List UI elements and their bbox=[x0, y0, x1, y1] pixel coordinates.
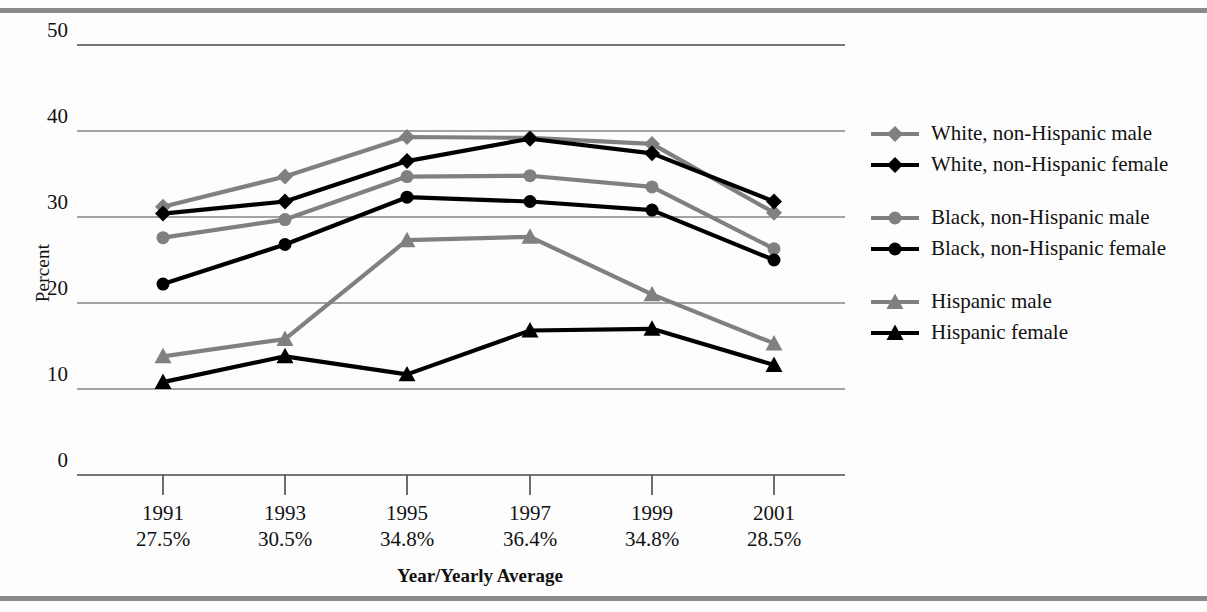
x-tick-average: 30.5% bbox=[225, 526, 345, 552]
legend-item[interactable]: Hispanic male bbox=[869, 286, 1199, 317]
diamond-marker bbox=[887, 126, 903, 142]
legend-label: Hispanic female bbox=[931, 320, 1068, 345]
x-tick-year: 1999 bbox=[592, 500, 712, 526]
data-point bbox=[768, 254, 781, 267]
series-4 bbox=[155, 228, 783, 363]
data-point bbox=[524, 169, 537, 182]
legend-label: White, non-Hispanic female bbox=[931, 152, 1168, 177]
x-tick-year: 1995 bbox=[347, 500, 467, 526]
legend-item[interactable]: White, non-Hispanic male bbox=[869, 118, 1199, 149]
data-point bbox=[401, 191, 414, 204]
x-tick-label-1995: 199534.8% bbox=[347, 500, 467, 552]
x-tick-year: 1997 bbox=[470, 500, 590, 526]
y-tick-label-20: 20 bbox=[20, 278, 68, 299]
circle-marker bbox=[869, 238, 921, 260]
data-point bbox=[522, 131, 538, 147]
legend-group-1: Black, non-Hispanic maleBlack, non-Hispa… bbox=[869, 202, 1199, 264]
data-point bbox=[157, 278, 170, 291]
y-tick-label-40: 40 bbox=[20, 106, 68, 127]
data-point bbox=[399, 153, 415, 169]
circle-marker bbox=[889, 242, 902, 255]
x-tick-year: 2001 bbox=[714, 500, 834, 526]
y-tick-label-0: 0 bbox=[20, 450, 68, 471]
legend-group-0: White, non-Hispanic maleWhite, non-Hispa… bbox=[869, 118, 1199, 180]
x-tick-average: 36.4% bbox=[470, 526, 590, 552]
diamond-marker bbox=[869, 154, 921, 176]
triangle-marker bbox=[869, 291, 921, 313]
series-2 bbox=[157, 169, 781, 255]
legend-item[interactable]: Black, non-Hispanic male bbox=[869, 202, 1199, 233]
x-tick-average: 34.8% bbox=[347, 526, 467, 552]
legend-item[interactable]: Hispanic female bbox=[869, 317, 1199, 348]
legend-group-2: Hispanic maleHispanic female bbox=[869, 286, 1199, 348]
x-tick-label-2001: 200128.5% bbox=[714, 500, 834, 552]
x-tick-average: 34.8% bbox=[592, 526, 712, 552]
x-tick-label-1991: 199127.5% bbox=[103, 500, 223, 552]
circle-marker bbox=[869, 207, 921, 229]
y-axis-label: Percent bbox=[32, 218, 54, 328]
page-canvas: Percent 01020304050 199127.5%199330.5%19… bbox=[0, 0, 1207, 612]
x-tick-label-1999: 199934.8% bbox=[592, 500, 712, 552]
series-line bbox=[163, 197, 774, 284]
legend-label: White, non-Hispanic male bbox=[931, 121, 1152, 146]
x-tick-average: 27.5% bbox=[103, 526, 223, 552]
legend-label: Black, non-Hispanic female bbox=[931, 236, 1166, 261]
y-tick-label-10: 10 bbox=[20, 364, 68, 385]
chart-legend: White, non-Hispanic maleWhite, non-Hispa… bbox=[869, 118, 1199, 348]
legend-item[interactable]: White, non-Hispanic female bbox=[869, 149, 1199, 180]
data-point bbox=[524, 195, 537, 208]
data-point bbox=[646, 204, 659, 217]
data-point bbox=[277, 169, 293, 185]
series-line bbox=[163, 329, 774, 382]
data-point bbox=[768, 242, 781, 255]
x-axis-ticks bbox=[163, 475, 774, 495]
data-point bbox=[766, 194, 782, 210]
x-tick-label-1997: 199736.4% bbox=[470, 500, 590, 552]
series-5 bbox=[155, 320, 783, 389]
y-tick-label-30: 30 bbox=[20, 192, 68, 213]
data-point bbox=[401, 170, 414, 183]
triangle-marker bbox=[869, 322, 921, 344]
data-point bbox=[277, 194, 293, 210]
data-point bbox=[646, 180, 659, 193]
data-series-layer bbox=[155, 129, 783, 389]
data-point bbox=[157, 231, 170, 244]
y-tick-label-50: 50 bbox=[20, 20, 68, 41]
legend-item[interactable]: Black, non-Hispanic female bbox=[869, 233, 1199, 264]
x-tick-year: 1993 bbox=[225, 500, 345, 526]
line-chart: Percent 01020304050 199127.5%199330.5%19… bbox=[0, 0, 1207, 612]
x-tick-year: 1991 bbox=[103, 500, 223, 526]
gridlines bbox=[77, 45, 845, 475]
diamond-marker bbox=[869, 123, 921, 145]
data-point bbox=[279, 238, 292, 251]
legend-label: Hispanic male bbox=[931, 289, 1052, 314]
legend-label: Black, non-Hispanic male bbox=[931, 205, 1150, 230]
x-tick-label-1993: 199330.5% bbox=[225, 500, 345, 552]
data-point bbox=[279, 213, 292, 226]
circle-marker bbox=[889, 211, 902, 224]
x-axis-label: Year/Yearly Average bbox=[115, 565, 845, 587]
x-tick-average: 28.5% bbox=[714, 526, 834, 552]
diamond-marker bbox=[887, 157, 903, 173]
